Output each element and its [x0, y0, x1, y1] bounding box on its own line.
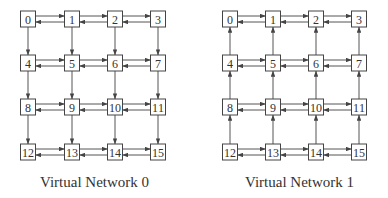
router-node-label: 4 — [227, 57, 233, 71]
router-node-label: 11 — [353, 101, 365, 115]
router-node-13: 13 — [266, 144, 281, 160]
router-node-15: 15 — [151, 144, 166, 160]
router-node-13: 13 — [65, 144, 80, 160]
router-node-label: 8 — [227, 101, 233, 115]
router-node-label: 13 — [267, 146, 279, 160]
router-node-label: 11 — [152, 101, 164, 115]
router-node-9: 9 — [65, 99, 80, 115]
virtual-network-0: 0123456789101112131415 — [21, 11, 166, 160]
router-node-11: 11 — [352, 99, 367, 115]
router-node-label: 5 — [69, 57, 75, 71]
router-node-14: 14 — [309, 144, 324, 160]
router-node-label: 2 — [313, 13, 319, 27]
router-node-label: 15 — [152, 146, 164, 160]
router-node-6: 6 — [108, 55, 123, 71]
router-node-4: 4 — [21, 55, 36, 71]
router-node-8: 8 — [21, 99, 36, 115]
router-node-label: 9 — [270, 101, 276, 115]
router-node-12: 12 — [223, 144, 238, 160]
router-node-2: 2 — [309, 11, 324, 27]
router-node-label: 13 — [66, 146, 78, 160]
router-node-6: 6 — [309, 55, 324, 71]
router-node-7: 7 — [352, 55, 367, 71]
router-node-15: 15 — [352, 144, 367, 160]
router-node-3: 3 — [352, 11, 367, 27]
router-node-5: 5 — [266, 55, 281, 71]
router-node-label: 3 — [155, 13, 161, 27]
router-node-label: 12 — [224, 146, 236, 160]
router-node-9: 9 — [266, 99, 281, 115]
router-node-label: 6 — [112, 57, 118, 71]
router-node-10: 10 — [309, 99, 324, 115]
router-node-2: 2 — [108, 11, 123, 27]
router-node-0: 0 — [21, 11, 36, 27]
caption-virtual-network-1: Virtual Network 1 — [245, 174, 354, 191]
router-node-label: 6 — [313, 57, 319, 71]
router-node-label: 7 — [356, 57, 362, 71]
router-node-label: 8 — [25, 101, 31, 115]
router-node-label: 12 — [22, 146, 34, 160]
router-node-label: 14 — [310, 146, 322, 160]
router-node-4: 4 — [223, 55, 238, 71]
router-node-label: 3 — [356, 13, 362, 27]
router-node-14: 14 — [108, 144, 123, 160]
router-node-label: 4 — [25, 57, 31, 71]
router-node-8: 8 — [223, 99, 238, 115]
router-node-1: 1 — [266, 11, 281, 27]
router-node-label: 2 — [112, 13, 118, 27]
router-node-label: 1 — [270, 13, 276, 27]
virtual-networks-diagram: 0123456789101112131415 01234567891011121… — [0, 0, 388, 198]
router-node-3: 3 — [151, 11, 166, 27]
router-node-label: 15 — [353, 146, 365, 160]
router-node-label: 14 — [109, 146, 121, 160]
router-node-7: 7 — [151, 55, 166, 71]
router-node-label: 0 — [227, 13, 233, 27]
router-node-label: 5 — [270, 57, 276, 71]
router-node-5: 5 — [65, 55, 80, 71]
router-node-label: 10 — [109, 101, 121, 115]
caption-virtual-network-0: Virtual Network 0 — [40, 174, 149, 191]
router-node-12: 12 — [21, 144, 36, 160]
router-node-label: 1 — [69, 13, 75, 27]
router-node-label: 10 — [310, 101, 322, 115]
router-node-1: 1 — [65, 11, 80, 27]
router-node-label: 9 — [69, 101, 75, 115]
router-node-label: 0 — [25, 13, 31, 27]
router-node-0: 0 — [223, 11, 238, 27]
virtual-network-1: 0123456789101112131415 — [223, 11, 367, 160]
router-node-11: 11 — [151, 99, 166, 115]
router-node-label: 7 — [155, 57, 161, 71]
router-node-10: 10 — [108, 99, 123, 115]
